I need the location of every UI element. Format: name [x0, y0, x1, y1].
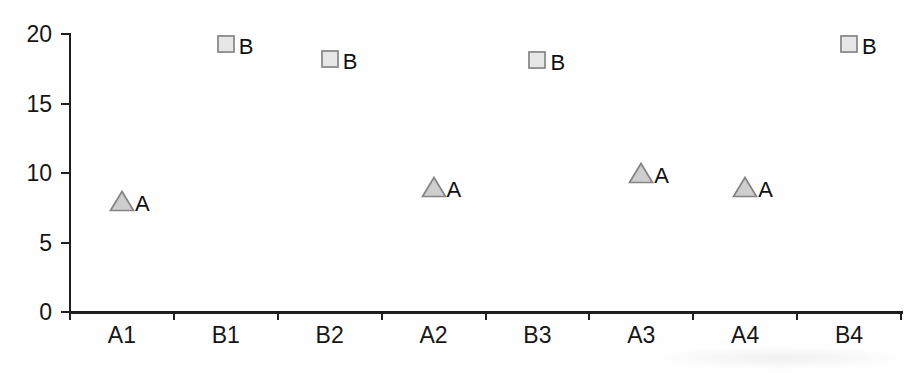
y-axis-tick-label: 0 — [6, 299, 52, 325]
x-axis-tick — [69, 312, 71, 320]
y-axis-tick-label: 20 — [6, 21, 52, 47]
data-point-series-label: A — [135, 191, 150, 217]
x-axis-tick — [277, 312, 279, 320]
y-axis-tick — [61, 172, 70, 174]
data-point-series-label: A — [758, 177, 773, 203]
x-axis-tick — [900, 312, 902, 320]
y-axis-tick — [61, 103, 70, 105]
data-point-series-label: A — [447, 177, 462, 203]
data-point-series-label: B — [239, 34, 254, 60]
square-marker-icon — [528, 51, 546, 69]
data-point-series-label: B — [862, 34, 877, 60]
x-axis-tick — [796, 312, 798, 320]
triangle-marker-icon — [421, 175, 447, 198]
triangle-marker-icon — [628, 161, 654, 184]
y-axis-tick — [61, 242, 70, 244]
x-axis-category-label: A1 — [82, 322, 162, 348]
triangle-marker-icon — [732, 175, 758, 198]
x-axis-tick — [173, 312, 175, 320]
x-axis-tick — [692, 312, 694, 320]
square-marker-icon — [840, 35, 858, 53]
x-axis-category-label: B3 — [497, 322, 577, 348]
data-point-series-label: A — [654, 163, 669, 189]
y-axis-tick-label: 10 — [6, 160, 52, 186]
x-axis-category-label: B2 — [290, 322, 370, 348]
y-axis-tick-label: 15 — [6, 91, 52, 117]
x-axis-category-label: B1 — [186, 322, 266, 348]
x-axis-tick — [588, 312, 590, 320]
triangle-marker-icon — [109, 189, 135, 212]
data-point-series-label: B — [343, 49, 358, 75]
chart-area: 05101520A1B1B2A2B3A3A4B4ABBABAAB — [0, 0, 923, 373]
y-axis-line — [69, 33, 71, 320]
x-axis-tick — [485, 312, 487, 320]
x-axis-tick — [381, 312, 383, 320]
scatter-plot-figure: 05101520A1B1B2A2B3A3A4B4ABBABAAB — [0, 0, 923, 373]
x-axis-category-label: B4 — [809, 322, 889, 348]
square-marker-icon — [217, 35, 235, 53]
square-marker-icon — [321, 50, 339, 68]
x-axis-category-label: A3 — [601, 322, 681, 348]
y-axis-tick-label: 5 — [6, 230, 52, 256]
x-axis-category-label: A4 — [705, 322, 785, 348]
x-axis-category-label: A2 — [394, 322, 474, 348]
data-point-series-label: B — [550, 50, 565, 76]
y-axis-tick — [61, 33, 70, 35]
